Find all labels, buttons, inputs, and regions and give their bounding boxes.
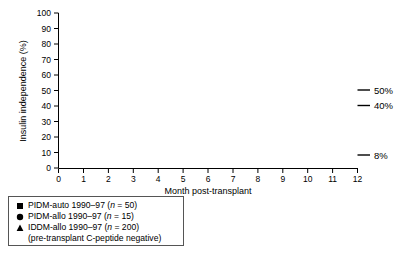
x-tick-0: 0: [56, 174, 61, 184]
legend-label-iddm-allo: IDDM-allo 1990–97 (n = 200): [25, 222, 139, 233]
y-tick-10: 10: [42, 148, 52, 158]
y-axis-ticks: [54, 13, 59, 168]
y-axis-title: Insulin independence (%): [18, 40, 28, 142]
circle-marker-icon: [15, 211, 25, 222]
legend: PIDM-auto 1990–97 (n = 50) PIDM-allo 199…: [8, 196, 184, 246]
legend-label-pidm-auto: PIDM-auto 1990–97 (n = 50): [25, 200, 137, 211]
x-axis-ticks: [59, 169, 358, 174]
x-axis-tick-labels: 0 1 2 3 4 5 6 7 8 9 10 11 12: [56, 174, 362, 184]
y-axis-tick-labels: 100 90 80 70 60 50 40 30 20 10 0: [37, 8, 51, 173]
x-tick-3: 3: [131, 174, 136, 184]
legend-item-pidm-auto: PIDM-auto 1990–97 (n = 50): [9, 200, 183, 211]
end-label-iddm: 8%: [374, 150, 388, 161]
y-tick-100: 100: [37, 8, 51, 18]
x-tick-11: 11: [328, 174, 337, 184]
x-tick-9: 9: [280, 174, 285, 184]
x-tick-10: 10: [303, 174, 313, 184]
x-tick-1: 1: [81, 174, 86, 184]
x-tick-7: 7: [231, 174, 236, 184]
x-tick-2: 2: [106, 174, 111, 184]
y-tick-70: 70: [42, 55, 52, 65]
triangle-marker-icon: [15, 222, 25, 233]
x-axis-title: Month post-transplant: [164, 186, 252, 196]
legend-subnote: (pre-transplant C-peptide negative): [9, 233, 183, 244]
y-tick-60: 60: [42, 70, 52, 80]
y-tick-40: 40: [42, 101, 52, 111]
legend-item-pidm-allo: PIDM-allo 1990–97 (n = 15): [9, 211, 183, 222]
y-tick-90: 90: [42, 24, 52, 34]
x-tick-12: 12: [353, 174, 363, 184]
figure-container: 100 90 80 70 60 50 40 30 20 10 0 Insulin…: [0, 0, 406, 253]
square-marker-icon: [15, 200, 25, 211]
end-label-auto: 50%: [374, 85, 394, 96]
x-tick-6: 6: [206, 174, 211, 184]
y-tick-0: 0: [46, 163, 51, 173]
x-tick-5: 5: [181, 174, 186, 184]
x-tick-4: 4: [156, 174, 161, 184]
y-tick-80: 80: [42, 39, 52, 49]
y-tick-50: 50: [42, 86, 52, 96]
y-tick-20: 20: [42, 132, 52, 142]
legend-item-iddm-allo: IDDM-allo 1990–97 (n = 200): [9, 222, 183, 233]
legend-label-pidm-allo: PIDM-allo 1990–97 (n = 15): [25, 211, 134, 222]
end-label-group: 50% 40% 8%: [358, 85, 394, 161]
y-tick-30: 30: [42, 117, 52, 127]
end-label-allo: 40%: [374, 100, 394, 111]
x-tick-8: 8: [256, 174, 261, 184]
